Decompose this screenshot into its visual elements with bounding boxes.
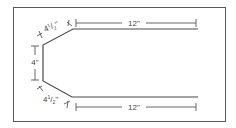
label-left-height: 4'' xyxy=(31,58,39,67)
label-bottom-diagonal: 41/2'' xyxy=(43,94,59,105)
diagram-canvas: 12'' 12'' 4'' 41/2'' 41/2'' xyxy=(0,0,236,128)
label-top-length: 12'' xyxy=(128,19,140,28)
label-bottom-length: 12'' xyxy=(128,103,140,112)
